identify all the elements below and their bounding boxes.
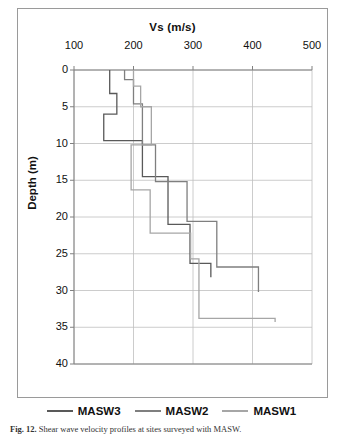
caption-label: Fig. 12.	[10, 424, 37, 434]
legend-swatch	[47, 410, 73, 412]
figure-page: Vs (m/s) Depth (m) 100200300400500 05101…	[0, 0, 343, 443]
chart-legend: MASW3MASW2MASW1	[17, 400, 326, 422]
legend-swatch	[135, 410, 161, 412]
legend-item: MASW2	[135, 405, 209, 417]
legend-item: MASW3	[47, 405, 121, 417]
plot-area-wrapper: Vs (m/s) Depth (m) 100200300400500 05101…	[18, 9, 327, 397]
chart-frame: Vs (m/s) Depth (m) 100200300400500 05101…	[17, 8, 328, 398]
vs-depth-plot	[18, 9, 327, 397]
legend-swatch	[222, 410, 248, 412]
figure-caption: Fig. 12. Shear wave velocity profiles at…	[10, 424, 335, 435]
legend-label: MASW1	[253, 405, 296, 417]
caption-text: Shear wave velocity profiles at sites su…	[37, 424, 242, 434]
legend-label: MASW2	[166, 405, 209, 417]
legend-label: MASW3	[78, 405, 121, 417]
legend-item: MASW1	[222, 405, 296, 417]
